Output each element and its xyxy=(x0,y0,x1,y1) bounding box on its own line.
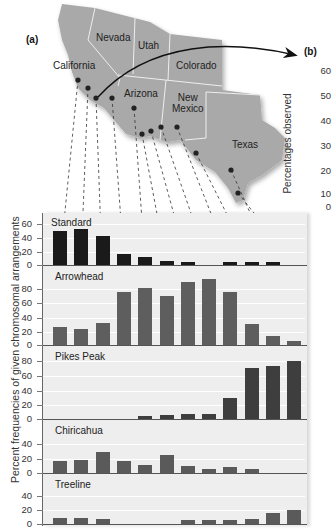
gridline xyxy=(43,289,305,290)
state-label-arizona: Arizona xyxy=(124,88,158,99)
side-tick-40: 40 xyxy=(312,115,331,126)
arrowhead-ytick-40: 40 xyxy=(8,312,32,323)
tick-mark xyxy=(37,224,43,225)
side-tick-10: 10 xyxy=(312,188,331,199)
treeline-baseline xyxy=(43,524,307,525)
gridline xyxy=(43,303,305,304)
new-mexico-line1: New xyxy=(172,92,204,103)
panel-b-label: (b) xyxy=(304,46,317,57)
arrowhead-bar-1 xyxy=(53,327,67,345)
panel-title-chiricahua: Chiricahua xyxy=(55,425,103,436)
standard-ytick-60: 60 xyxy=(8,218,32,229)
state-label-utah: Utah xyxy=(138,40,159,51)
gridline xyxy=(43,510,305,511)
pikes-peak-ytick-0: 0 xyxy=(8,413,32,424)
arrowhead-bar-6 xyxy=(160,296,174,345)
chiricahua-ytick-40: 40 xyxy=(8,438,32,449)
chiricahua-bar-3 xyxy=(96,452,110,473)
gridline xyxy=(43,496,305,497)
arrowhead-bar-5 xyxy=(138,288,152,345)
chiricahua-bar-4 xyxy=(117,461,131,473)
standard-bar-2 xyxy=(74,229,88,265)
side-tick-0: 0 xyxy=(319,201,331,212)
pikes-peak-ytick-80: 80 xyxy=(8,355,32,366)
arrowhead-ytick-80: 80 xyxy=(8,283,32,294)
arrowhead-bar-8 xyxy=(202,279,216,345)
arrowhead-ytick-60: 60 xyxy=(8,297,32,308)
tick-mark xyxy=(37,361,43,362)
pikes-peak-ytick-60: 60 xyxy=(8,370,32,381)
chiricahua-ytick-20: 20 xyxy=(8,453,32,464)
chiricahua-bar-2 xyxy=(74,460,88,473)
chiricahua-ytick-0: 0 xyxy=(8,467,32,478)
standard-ytick-0: 0 xyxy=(8,259,32,270)
chiricahua-baseline xyxy=(43,473,307,474)
panel-title-treeline: Treeline xyxy=(55,479,91,490)
state-label-new-mexico: New Mexico xyxy=(172,92,204,114)
state-label-california: California xyxy=(53,60,95,71)
treeline-ytick-40: 40 xyxy=(8,490,32,501)
tick-mark xyxy=(37,238,43,239)
standard-bar-3 xyxy=(96,236,110,265)
side-axis-label: Percentages observed xyxy=(282,84,293,204)
standard-ytick-40: 40 xyxy=(8,232,32,243)
tick-mark xyxy=(37,318,43,319)
arrowhead-bar-3 xyxy=(96,323,110,345)
panel-title-standard: Standard xyxy=(51,217,92,228)
tick-mark xyxy=(37,252,43,253)
standard-bar-5 xyxy=(138,257,152,265)
arrowhead-ytick-0: 0 xyxy=(8,339,32,350)
side-tick-60: 60 xyxy=(312,65,331,76)
side-tick-50: 50 xyxy=(312,90,331,101)
tick-mark xyxy=(37,459,43,460)
tick-mark xyxy=(37,391,43,392)
tick-mark xyxy=(37,444,43,445)
pikes-peak-bar-12 xyxy=(287,361,301,419)
standard-baseline xyxy=(43,265,307,266)
pikes-peak-bar-11 xyxy=(266,366,280,419)
y-axis-line xyxy=(42,213,43,526)
standard-ytick-20: 20 xyxy=(8,246,32,257)
tick-mark xyxy=(37,405,43,406)
pikes-peak-bar-10 xyxy=(245,368,259,419)
arrowhead-bar-2 xyxy=(74,329,88,345)
pikes-peak-baseline xyxy=(43,419,307,420)
arrowhead-baseline xyxy=(43,345,307,346)
panel-title-pikes-peak: Pikes Peak xyxy=(55,351,105,362)
tick-mark xyxy=(37,303,43,304)
side-tick-20: 20 xyxy=(312,165,331,176)
gridline xyxy=(43,318,305,319)
tick-mark xyxy=(37,376,43,377)
treeline-ytick-0: 0 xyxy=(8,518,32,529)
standard-bar-1 xyxy=(53,231,67,265)
arrowhead-bar-9 xyxy=(223,292,237,345)
panel-a-label: (a) xyxy=(26,34,38,45)
chiricahua-bar-7 xyxy=(181,466,195,473)
arrowhead-ytick-20: 20 xyxy=(8,326,32,337)
pikes-peak-ytick-20: 20 xyxy=(8,399,32,410)
pikes-peak-bar-9 xyxy=(223,398,237,419)
pikes-peak-ytick-40: 40 xyxy=(8,385,32,396)
standard-bar-4 xyxy=(117,254,131,265)
treeline-bar-11 xyxy=(266,513,280,524)
gridline xyxy=(43,444,305,445)
tick-mark xyxy=(37,289,43,290)
chiricahua-bar-1 xyxy=(53,461,67,473)
treeline-bar-12 xyxy=(287,510,301,524)
tick-mark xyxy=(37,332,43,333)
chiricahua-bar-5 xyxy=(138,465,152,473)
treeline-ytick-20: 20 xyxy=(8,504,32,515)
state-label-colorado: Colorado xyxy=(176,60,217,71)
panel-title-arrowhead: Arrowhead xyxy=(55,271,103,282)
state-label-nevada: Nevada xyxy=(96,32,130,43)
new-mexico-line2: Mexico xyxy=(172,103,204,114)
tick-mark xyxy=(37,510,43,511)
arrowhead-bar-11 xyxy=(266,336,280,345)
tick-mark xyxy=(37,496,43,497)
arrowhead-bar-4 xyxy=(117,292,131,345)
chiricahua-bar-6 xyxy=(160,455,174,473)
state-label-texas: Texas xyxy=(232,139,258,150)
arrowhead-bar-7 xyxy=(181,282,195,345)
arrowhead-bar-10 xyxy=(245,324,259,345)
side-tick-30: 30 xyxy=(312,140,331,151)
